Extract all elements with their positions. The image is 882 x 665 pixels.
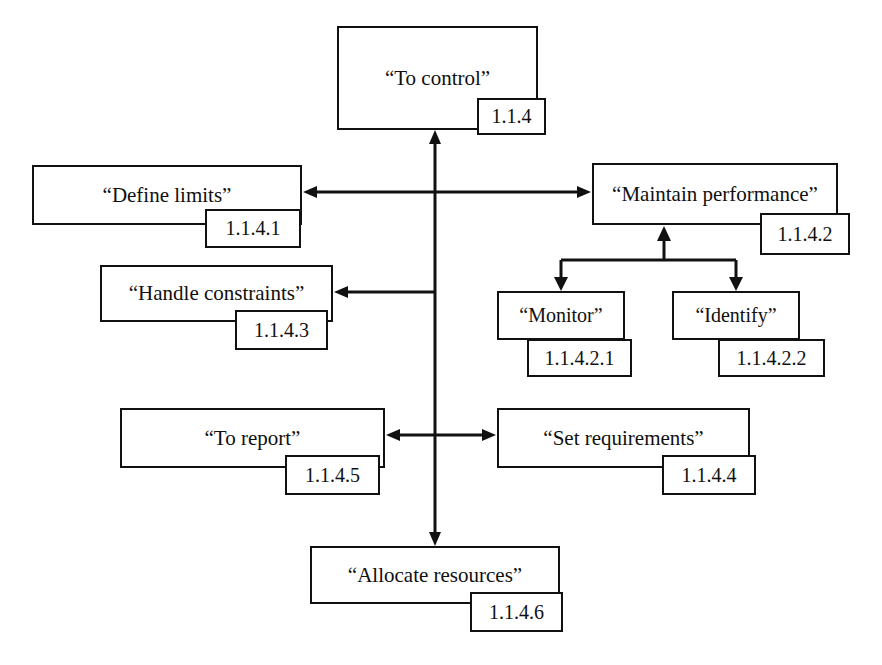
node-monitor[interactable]: “Monitor” xyxy=(497,291,625,340)
node-to-report-id[interactable]: 1.1.4.5 xyxy=(285,455,380,495)
arrowhead-up-to-control xyxy=(429,130,441,144)
node-maintain-performance-label: “Maintain performance” xyxy=(612,182,818,206)
node-allocate-resources-id[interactable]: 1.1.4.6 xyxy=(470,592,563,632)
node-identify[interactable]: “Identify” xyxy=(672,291,800,340)
arrowhead-right-maintain-performance xyxy=(577,186,591,198)
node-to-report-id-label: 1.1.4.5 xyxy=(305,464,360,487)
node-identify-id[interactable]: 1.1.4.2.2 xyxy=(718,339,825,377)
node-to-control-label: “To control” xyxy=(385,66,490,90)
node-to-control-id[interactable]: 1.1.4 xyxy=(477,98,546,135)
node-define-limits-label: “Define limits” xyxy=(103,183,232,207)
arrowhead-up-maintain-performance xyxy=(657,226,671,241)
node-allocate-resources-id-label: 1.1.4.6 xyxy=(489,601,544,624)
arrowhead-down-identify xyxy=(729,277,743,291)
node-monitor-id-label: 1.1.4.2.1 xyxy=(545,347,615,370)
node-to-report-label: “To report” xyxy=(205,426,301,450)
node-allocate-resources-label: “Allocate resources” xyxy=(348,563,522,587)
node-define-limits-id-label: 1.1.4.1 xyxy=(226,217,281,240)
node-set-requirements-id[interactable]: 1.1.4.4 xyxy=(662,455,756,495)
node-maintain-performance-id[interactable]: 1.1.4.2 xyxy=(760,213,850,255)
node-handle-constraints-id-label: 1.1.4.3 xyxy=(254,319,309,342)
node-to-control-id-label: 1.1.4 xyxy=(492,105,532,128)
arrowhead-right-set-requirements xyxy=(482,429,496,441)
edge-report-set-requirements xyxy=(386,429,496,441)
node-identify-id-label: 1.1.4.2.2 xyxy=(737,347,807,370)
node-set-requirements-label: “Set requirements” xyxy=(543,426,703,450)
node-identify-label: “Identify” xyxy=(695,304,776,327)
node-handle-constraints-id[interactable]: 1.1.4.3 xyxy=(235,310,328,350)
edge-central-spine xyxy=(429,130,441,546)
edge-define-limits-maintain-performance xyxy=(303,186,591,198)
arrowhead-down-monitor xyxy=(554,277,568,291)
edge-spine-handle-constraints xyxy=(334,286,435,298)
node-monitor-id[interactable]: 1.1.4.2.1 xyxy=(527,339,632,377)
node-set-requirements-id-label: 1.1.4.4 xyxy=(682,464,737,487)
function-hierarchy-diagram: “To control” 1.1.4 “Define limits” 1.1.4… xyxy=(0,0,882,665)
arrowhead-left-handle-constraints xyxy=(334,286,348,298)
node-maintain-performance-id-label: 1.1.4.2 xyxy=(778,223,833,246)
node-handle-constraints-label: “Handle constraints” xyxy=(129,281,305,305)
arrowhead-left-define-limits xyxy=(303,186,317,198)
node-define-limits-id[interactable]: 1.1.4.1 xyxy=(205,209,301,248)
node-monitor-label: “Monitor” xyxy=(519,304,602,327)
arrowhead-down-allocate xyxy=(429,532,441,546)
edge-maintain-performance-children xyxy=(554,226,743,291)
arrowhead-left-to-report xyxy=(386,429,400,441)
